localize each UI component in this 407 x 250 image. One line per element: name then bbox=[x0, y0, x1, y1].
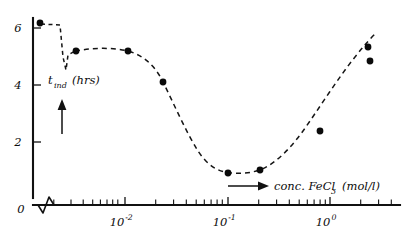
x-axis-label-arrow bbox=[228, 182, 269, 191]
x-tick-label-1e-1: 10 -1 bbox=[213, 213, 236, 229]
y-axis-title-symbol: t bbox=[48, 73, 53, 87]
y-axis-title-subscript: ind bbox=[54, 81, 67, 90]
data-point bbox=[365, 44, 372, 51]
plot-canvas: 6 4 2 0 10 -2 10 -1 10 0 t ind (hrs) con… bbox=[0, 0, 407, 250]
chart-figure: 6 4 2 0 10 -2 10 -1 10 0 t ind (hrs) con… bbox=[0, 0, 407, 250]
y-arrow-head bbox=[58, 99, 67, 110]
data-point bbox=[37, 20, 44, 27]
data-point bbox=[160, 79, 167, 86]
y-axis-title: t ind (hrs) bbox=[48, 73, 100, 90]
curve-segment-initial-drop bbox=[41, 24, 75, 70]
x-arrow-head bbox=[258, 182, 269, 191]
x-tick-mantissa: 10 bbox=[316, 215, 331, 229]
x-tick-mantissa: 10 bbox=[110, 215, 125, 229]
data-series-induction-time bbox=[37, 20, 376, 177]
data-point bbox=[73, 48, 80, 55]
y-axis-label-arrow bbox=[58, 99, 67, 134]
x-tick-exponent: 0 bbox=[332, 213, 337, 222]
y-tick-label-4: 4 bbox=[13, 78, 21, 92]
data-point bbox=[367, 58, 374, 65]
x-axis-title-suffix: (mol/l) bbox=[342, 179, 380, 193]
x-tick-mantissa: 10 bbox=[213, 215, 228, 229]
y-axis-title-unit: (hrs) bbox=[72, 73, 100, 87]
data-point bbox=[125, 48, 132, 55]
data-point bbox=[257, 167, 264, 174]
y-tick-label-6: 6 bbox=[14, 21, 21, 35]
data-point bbox=[225, 170, 232, 177]
x-axis-title-prefix: conc. FeCl bbox=[274, 179, 335, 193]
x-tick-exponent: -2 bbox=[125, 213, 133, 222]
origin-label: 0 bbox=[17, 202, 24, 216]
y-axis-group bbox=[33, 18, 41, 198]
y-tick-label-2: 2 bbox=[13, 135, 21, 149]
x-tick-label-1e0: 10 0 bbox=[316, 213, 337, 229]
x-tick-label-1e-2: 10 -2 bbox=[110, 213, 133, 229]
x-axis-title-subscript: 3 bbox=[331, 187, 336, 196]
x-axis-title: conc. FeCl 3 (mol/l) bbox=[274, 179, 380, 196]
data-point bbox=[317, 128, 324, 135]
curve-main bbox=[75, 33, 376, 173]
x-tick-exponent: -1 bbox=[228, 213, 236, 222]
x-axis-group bbox=[33, 197, 400, 213]
